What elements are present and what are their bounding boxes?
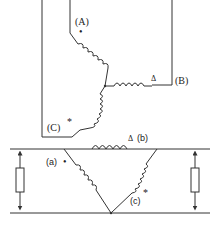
terminal-label-c: (c) [130, 196, 141, 206]
terminal-label-a: (a) [46, 157, 57, 167]
secondary-delta-network [10, 146, 210, 215]
delta-bottom-node [110, 212, 112, 214]
winding-a-delta-coil [64, 149, 111, 213]
winding-a-coil [78, 44, 108, 87]
polarity-mark-c: * [143, 187, 148, 198]
winding-c-coil [72, 86, 105, 137]
polarity-mark-A: • [79, 26, 83, 37]
circuit-diagram: (A) • Δ (B) (C) * [0, 0, 219, 226]
polarity-mark-b: Δ [128, 134, 133, 143]
frame-right-wire [152, 0, 172, 85]
terminal-label-b: (b) [137, 133, 148, 143]
polarity-mark-B: Δ [151, 74, 156, 83]
right-resistor [191, 153, 199, 208]
polarity-mark-C: * [67, 116, 72, 127]
winding-b-coil [105, 83, 152, 86]
left-resistor [16, 153, 24, 208]
terminal-label-C: (C) [47, 122, 60, 134]
star-neutral-node [104, 85, 106, 87]
terminal-label-B: (B) [175, 75, 188, 87]
winding-b-delta-coil [92, 146, 127, 150]
primary-star-network [42, 0, 172, 137]
polarity-mark-a: • [63, 156, 67, 167]
